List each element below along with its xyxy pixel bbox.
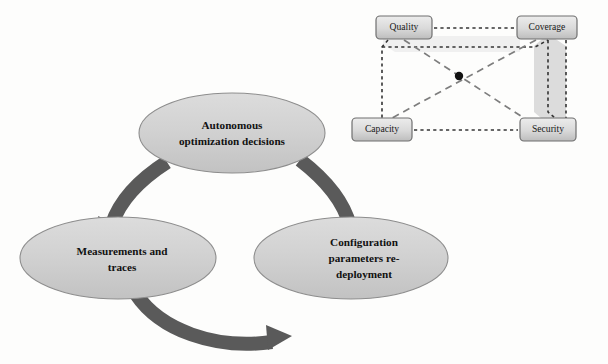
network-shade-face <box>534 34 566 124</box>
cycle-node-label-line-3: deployment <box>336 268 392 280</box>
network-node-label: Quality <box>390 21 419 32</box>
figure-canvas: Autonomous optimization decisions Measur… <box>0 0 608 364</box>
cycle-node-autonomous-optimization-decisions[interactable]: Autonomous optimization decisions <box>139 93 325 173</box>
arrow-measurements-to-configuration <box>136 294 292 350</box>
cycle-node-label-line-2: optimization decisions <box>179 135 286 147</box>
network-center-dot <box>455 72 463 80</box>
cycle-node-configuration-parameters-redeployment[interactable]: Configuration parameters re- deployment <box>254 217 448 299</box>
kpi-network: Quality Coverage Capacity Security <box>352 16 577 141</box>
cycle-node-label-line-1: Configuration <box>330 236 399 248</box>
network-node-coverage[interactable]: Coverage <box>517 16 577 39</box>
network-node-label: Coverage <box>529 21 566 32</box>
network-node-quality[interactable]: Quality <box>376 16 432 39</box>
cycle-node-label-line-1: Measurements and <box>77 245 169 257</box>
figure-svg: Autonomous optimization decisions Measur… <box>0 0 608 364</box>
network-node-security[interactable]: Security <box>520 118 576 141</box>
cycle-node-measurements-and-traces[interactable]: Measurements and traces <box>20 217 216 299</box>
network-node-label: Security <box>532 123 564 134</box>
cycle-node-label-line-2: parameters re- <box>329 252 400 264</box>
edge-quality-capacity <box>382 40 388 118</box>
cycle-node-label-line-2: traces <box>108 261 137 273</box>
network-node-label: Capacity <box>365 123 399 134</box>
network-node-capacity[interactable]: Capacity <box>352 118 412 141</box>
cycle-node-label-line-1: Autonomous <box>202 119 264 131</box>
